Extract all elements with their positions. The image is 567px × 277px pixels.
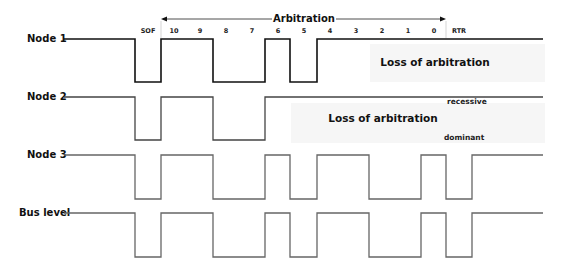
- recessive-label: recessive: [447, 97, 487, 106]
- node1-loss-label: Loss of arbitration: [380, 56, 489, 68]
- node2-loss-label: Loss of arbitration: [328, 112, 437, 124]
- arrow-left-icon: [161, 17, 167, 22]
- arrow-right-icon: [440, 17, 446, 22]
- bit-label-5: 5: [302, 27, 307, 35]
- node1-label: Node 1: [27, 33, 67, 44]
- bus-level-label: Bus level: [19, 207, 70, 218]
- bus-level-waveform: [64, 213, 543, 257]
- bit-label-8: 8: [224, 27, 229, 35]
- bit-label-3: 3: [354, 27, 359, 35]
- bit-label-7: 7: [250, 27, 255, 35]
- dominant-label: dominant: [444, 133, 485, 142]
- node2-label: Node 2: [27, 91, 67, 102]
- bit-label-10: 10: [169, 27, 179, 35]
- bit-label-sof: SOF: [141, 27, 156, 35]
- bit-label-4: 4: [328, 27, 333, 35]
- node3-waveform: [64, 155, 543, 199]
- bit-label-9: 9: [198, 27, 203, 35]
- bit-label-6: 6: [276, 27, 281, 35]
- bit-label-rtr: RTR: [452, 27, 466, 35]
- node3-label: Node 3: [27, 149, 67, 160]
- bit-labels: SOF 10 9 8 7 6 5 4 3 2 1 0 RTR: [141, 27, 466, 35]
- can-arbitration-diagram: Arbitration SOF 10 9 8 7 6 5 4 3 2 1 0 R…: [0, 0, 567, 277]
- arbitration-label: Arbitration: [273, 13, 335, 24]
- bit-label-0: 0: [432, 27, 437, 35]
- bit-label-1: 1: [406, 27, 411, 35]
- bit-label-2: 2: [380, 27, 385, 35]
